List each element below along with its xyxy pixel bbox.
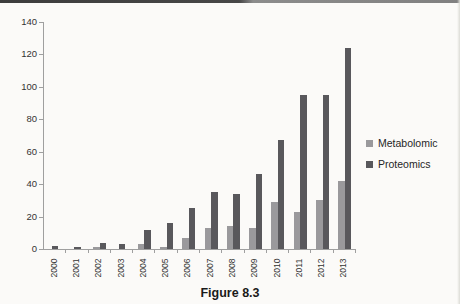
x-axis-label-2013: 2013 <box>333 252 355 284</box>
figure-page: 0204060801001201402000200120022003200420… <box>0 0 460 304</box>
x-axis-label-2011: 2011 <box>288 252 310 284</box>
proteomics-swatch-icon <box>366 161 373 168</box>
legend-item-proteomics: Proteomics <box>366 158 438 170</box>
bar-proteomics-2013 <box>345 48 352 249</box>
x-axis-label-2004: 2004 <box>132 252 154 284</box>
bar-group-2010 <box>267 22 289 249</box>
bar-proteomics-2011 <box>300 95 307 249</box>
bar-chart: 0204060801001201402000200120022003200420… <box>0 0 460 286</box>
x-axis-label-2005: 2005 <box>154 252 176 284</box>
bar-proteomics-2008 <box>233 194 240 249</box>
y-axis-tick <box>39 217 43 218</box>
x-axis-label-2009: 2009 <box>244 252 266 284</box>
chart-legend: Metabolomic Proteomics <box>366 137 438 170</box>
x-axis-label-2000: 2000 <box>43 252 65 284</box>
x-axis-label-2001: 2001 <box>65 252 87 284</box>
bar-group-2000 <box>44 22 66 249</box>
bar-group-2012 <box>311 22 333 249</box>
bar-group-2004 <box>133 22 155 249</box>
bar-group-2005 <box>155 22 177 249</box>
x-axis-tick <box>355 250 356 253</box>
bar-proteomics-2005 <box>167 223 174 249</box>
bar-group-2006 <box>178 22 200 249</box>
bar-proteomics-2002 <box>100 243 107 249</box>
bar-proteomics-2003 <box>119 244 126 249</box>
y-axis-tick-label: 0 <box>0 243 37 255</box>
x-axis-label-2002: 2002 <box>88 252 110 284</box>
bar-proteomics-2007 <box>211 192 218 249</box>
y-axis-tick <box>39 87 43 88</box>
y-axis-tick <box>39 54 43 55</box>
plot-area <box>43 22 356 250</box>
y-axis-tick <box>39 119 43 120</box>
legend-label-metabolomic: Metabolomic <box>378 137 438 149</box>
bar-group-2009 <box>245 22 267 249</box>
x-axis-label-2008: 2008 <box>221 252 243 284</box>
bar-proteomics-2006 <box>189 208 196 249</box>
bar-proteomics-2010 <box>278 140 285 249</box>
x-axis-label-2007: 2007 <box>199 252 221 284</box>
y-axis-tick-label: 100 <box>0 81 37 93</box>
y-axis-tick <box>39 152 43 153</box>
bar-group-2007 <box>200 22 222 249</box>
x-axis-label-2010: 2010 <box>266 252 288 284</box>
bar-group-2011 <box>289 22 311 249</box>
bar-proteomics-2009 <box>256 174 263 249</box>
x-axis-label-2006: 2006 <box>177 252 199 284</box>
y-axis-tick <box>39 249 43 250</box>
y-axis-tick-label: 120 <box>0 48 37 60</box>
bar-group-2013 <box>334 22 356 249</box>
x-axis-label-2003: 2003 <box>110 252 132 284</box>
y-axis-tick <box>39 22 43 23</box>
bar-proteomics-2004 <box>144 230 151 249</box>
y-axis-tick-label: 60 <box>0 146 37 158</box>
y-axis-tick <box>39 184 43 185</box>
legend-label-proteomics: Proteomics <box>378 158 431 170</box>
legend-item-metabolomic: Metabolomic <box>366 137 438 149</box>
bar-group-2002 <box>89 22 111 249</box>
x-axis-label-2012: 2012 <box>310 252 332 284</box>
bar-proteomics-2000 <box>52 246 59 249</box>
bar-group-2003 <box>111 22 133 249</box>
bar-group-2001 <box>66 22 88 249</box>
y-axis-tick-label: 80 <box>0 113 37 125</box>
y-axis-tick-label: 20 <box>0 211 37 223</box>
metabolomic-swatch-icon <box>366 140 373 147</box>
bar-proteomics-2012 <box>323 95 330 249</box>
figure-caption: Figure 8.3 <box>0 286 460 300</box>
bar-group-2008 <box>222 22 244 249</box>
y-axis-tick-label: 40 <box>0 178 37 190</box>
bar-proteomics-2001 <box>74 247 81 249</box>
y-axis-tick-label: 140 <box>0 16 37 28</box>
